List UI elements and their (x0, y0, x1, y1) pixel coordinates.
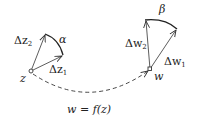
delta-w1-label: Δw1 (164, 56, 186, 69)
z-label: z (20, 73, 26, 84)
delta-z1-label: Δz1 (49, 64, 67, 77)
beta-label: β (159, 4, 165, 15)
delta-z2-label: Δz2 (14, 35, 32, 48)
w-label: w (154, 71, 163, 82)
alpha-label: α (59, 34, 66, 45)
beta-arc (145, 20, 177, 29)
z-point (29, 69, 33, 73)
w-point (148, 67, 152, 71)
mapping-label: w = f(z) (67, 104, 111, 115)
delta-w2-label: Δw2 (125, 38, 147, 51)
